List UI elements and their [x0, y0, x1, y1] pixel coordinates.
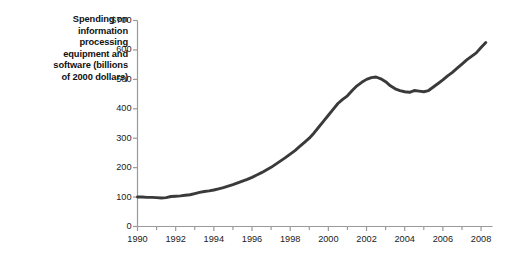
x-tick-label: 2008 [461, 234, 501, 244]
y-tick-label: 100 [92, 192, 132, 202]
y-tick-label: 0 [92, 221, 132, 231]
x-tick-label: 1990 [118, 234, 158, 244]
x-tick-label: 2000 [308, 234, 348, 244]
x-tick-label: 2006 [423, 234, 463, 244]
y-axis-title-line-2: information [10, 26, 128, 38]
axes [133, 21, 493, 232]
x-tick-label: 1998 [270, 234, 310, 244]
y-tick-label: 600 [92, 44, 132, 54]
x-tick-label: 2002 [347, 234, 387, 244]
chart-figure: Spending on information processing equip… [0, 0, 508, 263]
x-tick-label: 1996 [232, 234, 272, 244]
data-line [138, 43, 486, 198]
y-tick-label: 500 [92, 74, 132, 84]
x-tick-label: 1994 [194, 234, 234, 244]
y-axis-title-line-5: software (billions [10, 60, 128, 72]
y-tick-label: 200 [92, 162, 132, 172]
x-tick-label: 1992 [156, 234, 196, 244]
y-tick-label: 300 [92, 133, 132, 143]
x-tick-label: 2004 [385, 234, 425, 244]
y-tick-label: $700 [92, 15, 132, 25]
data-series-group [138, 43, 486, 198]
y-tick-label: 400 [92, 103, 132, 113]
